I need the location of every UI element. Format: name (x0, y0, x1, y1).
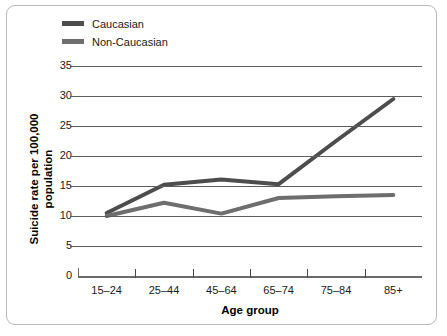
x-tick-mark (250, 269, 251, 278)
x-axis-tick-labels: 15–2425–4445–6465–7475–8485+ (78, 284, 422, 300)
x-tick-mark (365, 269, 366, 278)
legend-label-caucasian: Caucasian (92, 18, 144, 30)
gridline (78, 126, 422, 127)
y-tick-mark (70, 216, 78, 217)
x-axis-title: Age group (78, 304, 422, 316)
y-tick-mark (70, 186, 78, 187)
y-axis-title: Suicide rate per 100,000 population (27, 84, 55, 274)
plot-area (78, 66, 422, 276)
series-lines (78, 66, 422, 276)
y-tick-mark (70, 66, 78, 67)
y-axis-title-line2: population (42, 150, 54, 209)
x-tick-label: 45–64 (206, 284, 237, 296)
x-tick-label: 85+ (384, 284, 403, 296)
y-tick-mark (70, 126, 78, 127)
x-tick-label: 75–84 (321, 284, 352, 296)
y-tick-mark (70, 156, 78, 157)
x-tick-label: 25–44 (149, 284, 180, 296)
y-axis-title-line1: Suicide rate per 100,000 (28, 113, 40, 244)
legend-item-caucasian: Caucasian (62, 16, 262, 31)
chart-figure: Caucasian Non-Caucasian 05101520253035 S… (0, 0, 447, 336)
gridline (78, 156, 422, 157)
x-tick-mark (135, 269, 136, 278)
x-tick-label: 65–74 (263, 284, 294, 296)
gridline (78, 66, 422, 67)
gridline (78, 96, 422, 97)
y-tick-mark (70, 246, 78, 247)
gridline (78, 246, 422, 247)
y-tick-mark (70, 96, 78, 97)
series-line-non-caucasian (107, 195, 394, 216)
y-tick-label: 35 (50, 60, 72, 71)
gridline (78, 216, 422, 217)
legend-label-non-caucasian: Non-Caucasian (92, 36, 168, 48)
legend-item-non-caucasian: Non-Caucasian (62, 34, 262, 49)
x-tick-mark (307, 269, 308, 278)
y-axis-title-container: Suicide rate per 100,000 population (10, 60, 40, 280)
chart-legend: Caucasian Non-Caucasian (62, 16, 262, 52)
gridline (78, 186, 422, 187)
x-tick-mark (193, 269, 194, 278)
x-tick-label: 15–24 (91, 284, 122, 296)
